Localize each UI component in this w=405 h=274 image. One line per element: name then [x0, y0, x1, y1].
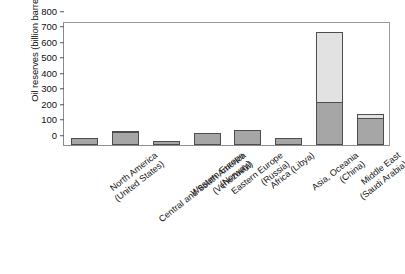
y-axis-tick-mark — [60, 73, 64, 74]
bar — [275, 138, 302, 145]
y-axis-tick-mark — [60, 42, 64, 43]
bar — [316, 32, 343, 145]
y-axis-tick-label: 200 — [29, 100, 60, 110]
bar — [153, 142, 180, 145]
bar-segment-divider — [153, 141, 180, 142]
bar-segment-lower — [357, 119, 384, 145]
y-axis-tick-label: 500 — [29, 53, 60, 63]
bar-segment-lower — [153, 142, 180, 145]
bar-segment-divider — [234, 130, 261, 131]
y-axis-tick-mark — [60, 11, 64, 12]
y-axis-tick-mark — [60, 88, 64, 89]
bar — [112, 131, 139, 145]
bar-segment-divider — [112, 132, 139, 133]
x-axis-label: North America(United States) — [106, 150, 166, 204]
y-axis-tick: 800 — [29, 7, 64, 17]
y-axis-tick-label: 300 — [29, 84, 60, 94]
y-axis-tick-label: 0 — [29, 131, 60, 141]
y-axis-tick-label: 600 — [29, 38, 60, 48]
y-axis-tick-label: 100 — [29, 115, 60, 125]
y-axis-tick-label: 800 — [29, 7, 60, 17]
y-axis-tick: 400 — [29, 69, 64, 79]
bar-segment-lower — [112, 133, 139, 145]
bar-segment-divider — [316, 102, 343, 103]
bar-segment-lower — [275, 139, 302, 145]
y-axis-tick-label: 700 — [29, 22, 60, 32]
bar-segment-lower — [316, 103, 343, 145]
bar-segment-lower — [234, 131, 261, 145]
y-axis-tick: 200 — [29, 100, 64, 110]
y-axis-tick-mark — [60, 26, 64, 27]
bar-segment-divider — [71, 138, 98, 139]
y-axis-tick-mark — [60, 57, 64, 58]
y-axis-tick: 300 — [29, 84, 64, 94]
bar — [234, 130, 261, 145]
bar-segment-divider — [194, 133, 221, 134]
bar-segment-lower — [71, 139, 98, 146]
plot-area: 0100200300400500600700800 — [63, 22, 390, 146]
bar-segment-lower — [194, 134, 221, 145]
chart-figure: Oil reserves (billion barrels) 010020030… — [0, 0, 405, 274]
y-axis-tick: 500 — [29, 53, 64, 63]
y-axis-tick: 100 — [29, 115, 64, 125]
bar — [194, 133, 221, 145]
y-axis-tick-mark — [60, 119, 64, 120]
bar — [71, 138, 98, 145]
y-axis-tick: 700 — [29, 22, 64, 32]
bar-segment-divider — [275, 138, 302, 139]
bar — [357, 114, 384, 145]
y-axis-tick: 0 — [29, 131, 64, 141]
y-axis-tick-mark — [60, 135, 64, 136]
bar-segment-divider — [357, 118, 384, 119]
y-axis-tick-label: 400 — [29, 69, 60, 79]
y-axis-tick-mark — [60, 104, 64, 105]
y-axis-tick: 600 — [29, 38, 64, 48]
